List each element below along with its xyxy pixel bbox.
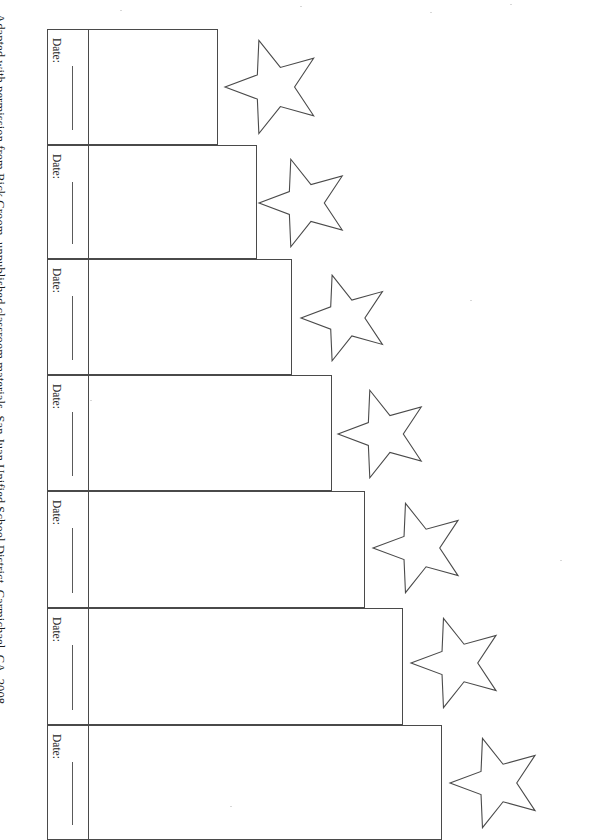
- scan-speck: [560, 560, 562, 561]
- goal-write-in-area[interactable]: [89, 146, 256, 258]
- star-icon: [253, 151, 357, 255]
- date-label: Date:: [51, 500, 62, 525]
- star-icon: [219, 32, 329, 142]
- staircase-row[interactable]: Date:: [47, 608, 403, 725]
- star-icon: [332, 382, 436, 486]
- date-write-in-line[interactable]: [72, 528, 73, 593]
- date-cell[interactable]: Date:: [48, 146, 88, 258]
- staircase-row[interactable]: Date:: [47, 145, 257, 259]
- date-label: Date:: [51, 734, 62, 759]
- goal-write-in-area[interactable]: [89, 376, 331, 490]
- goal-write-in-area[interactable]: [89, 726, 441, 839]
- date-label: Date:: [51, 268, 62, 293]
- date-cell[interactable]: Date:: [48, 726, 88, 839]
- date-cell[interactable]: Date:: [48, 376, 88, 490]
- goal-write-in-area[interactable]: [89, 492, 364, 607]
- goal-write-in-area[interactable]: [89, 30, 217, 144]
- goal-write-in-area[interactable]: [89, 260, 291, 374]
- scan-speck: [90, 400, 92, 401]
- staircase-row[interactable]: Date:: [47, 725, 442, 840]
- scan-speck: [120, 10, 122, 11]
- star-icon: [405, 610, 511, 716]
- date-cell[interactable]: Date:: [48, 492, 88, 607]
- star-icon: [367, 495, 473, 601]
- date-label: Date:: [51, 38, 62, 63]
- staircase-row[interactable]: Date:: [47, 491, 365, 608]
- staircase-row[interactable]: Date:: [47, 375, 332, 491]
- date-label: Date:: [51, 154, 62, 179]
- date-label: Date:: [51, 617, 62, 642]
- date-write-in-line[interactable]: [72, 645, 73, 710]
- goal-write-in-area[interactable]: [89, 609, 402, 724]
- scan-speck: [510, 4, 512, 5]
- scan-speck: [230, 806, 232, 807]
- date-write-in-line[interactable]: [72, 182, 73, 244]
- staircase-row[interactable]: Date:: [47, 29, 218, 145]
- star-icon: [444, 730, 550, 836]
- date-cell[interactable]: Date:: [48, 260, 88, 374]
- scan-speck: [430, 12, 432, 13]
- date-write-in-line[interactable]: [72, 762, 73, 825]
- star-icon: [295, 267, 397, 369]
- attribution-credit-line: Adapted with permission from Rick Croom,…: [0, 14, 8, 804]
- date-write-in-line[interactable]: [72, 412, 73, 476]
- staircase-row[interactable]: Date:: [47, 259, 292, 375]
- date-label: Date:: [51, 384, 62, 409]
- scan-speck: [470, 300, 472, 301]
- date-cell[interactable]: Date:: [48, 609, 88, 724]
- scan-speck: [300, 6, 302, 7]
- date-write-in-line[interactable]: [72, 66, 73, 130]
- date-cell[interactable]: Date:: [48, 30, 88, 144]
- date-write-in-line[interactable]: [72, 296, 73, 360]
